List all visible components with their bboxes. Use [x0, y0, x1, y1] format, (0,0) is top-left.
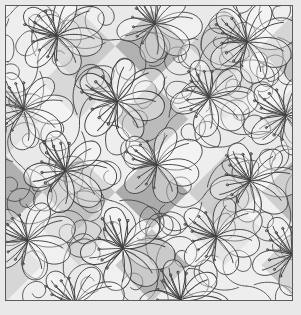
- scan-haze: [6, 6, 292, 300]
- pattern-canvas: [6, 6, 292, 300]
- swatch-border: [5, 5, 293, 301]
- swatch-image: Floral lattice textile swatch Repeating …: [0, 0, 301, 315]
